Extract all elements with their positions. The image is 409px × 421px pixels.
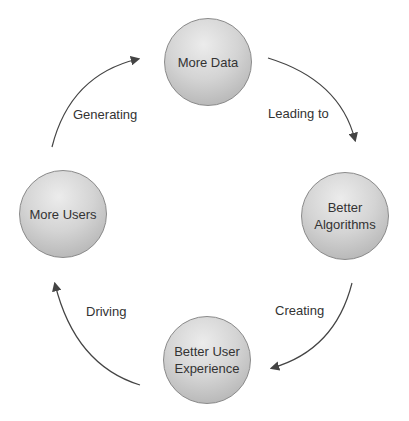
node-more-data: More Data bbox=[164, 18, 252, 106]
edge-label-generating: Generating bbox=[73, 107, 137, 122]
node-label: More Data bbox=[178, 54, 239, 71]
edge-label-creating: Creating bbox=[275, 303, 324, 318]
edge-label-leading-to: Leading to bbox=[268, 106, 329, 121]
arrow-creating bbox=[272, 283, 352, 368]
node-better-algorithms: Better Algorithms bbox=[301, 172, 389, 260]
node-label: Better Algorithms bbox=[310, 199, 380, 233]
node-better-user-experience: Better User Experience bbox=[163, 316, 251, 404]
arrow-driving bbox=[55, 284, 140, 385]
arrow-leading-to bbox=[268, 58, 355, 140]
arrow-generating bbox=[52, 59, 138, 147]
edge-label-driving: Driving bbox=[86, 304, 126, 319]
node-more-users: More Users bbox=[19, 170, 107, 258]
node-label: More Users bbox=[29, 206, 96, 223]
node-label: Better User Experience bbox=[167, 343, 247, 377]
